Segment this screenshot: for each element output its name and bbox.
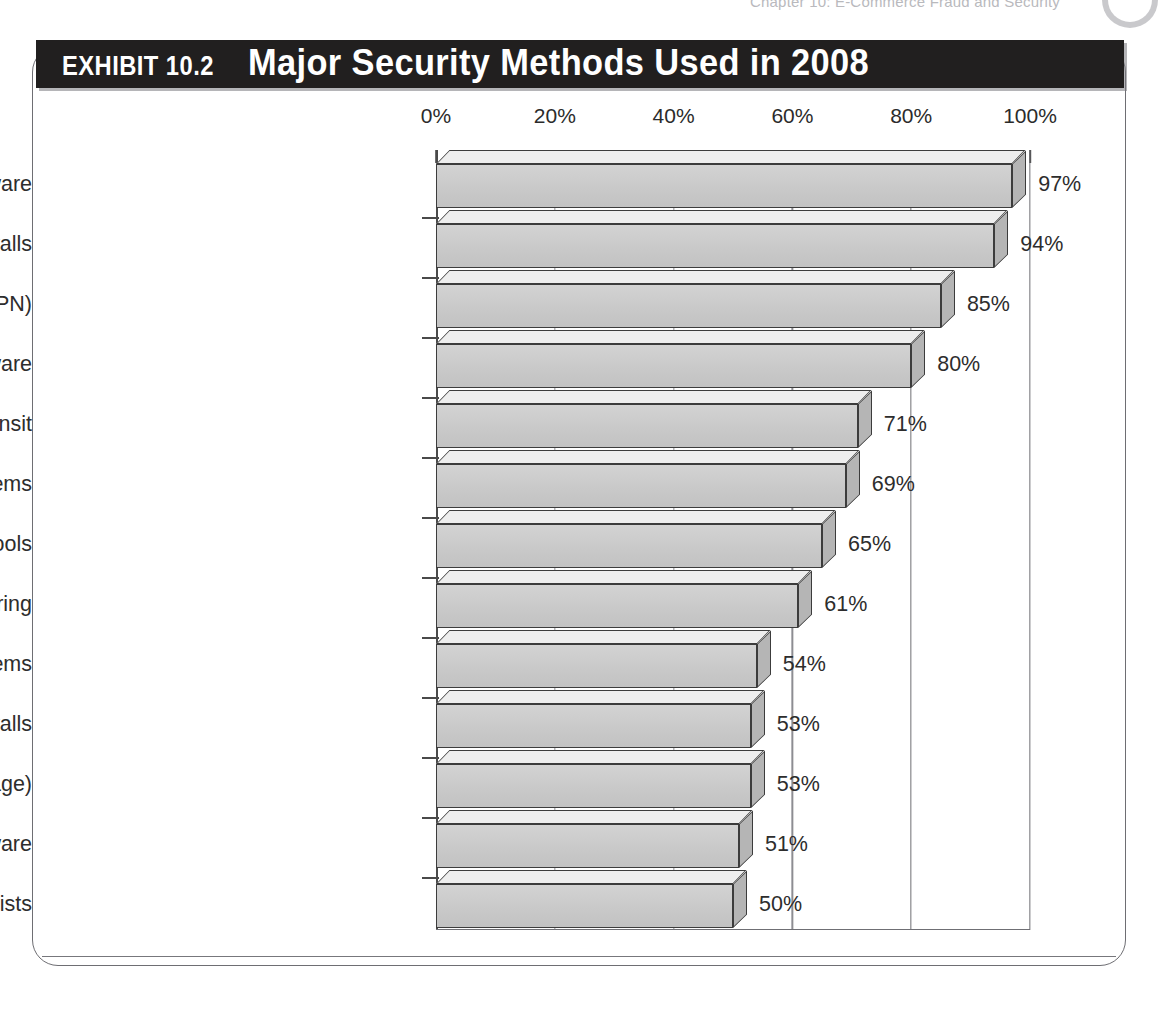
bar-row: Intrusion detection systems69% — [32, 450, 1126, 506]
exhibit-number-label: EXHIBIT 10.2 — [62, 51, 214, 82]
x-axis-tick-label: 40% — [653, 104, 695, 128]
bar-value-label: 65% — [848, 532, 891, 557]
bar-front-face — [436, 224, 994, 268]
bar — [436, 330, 911, 388]
bar-value-label: 85% — [967, 292, 1010, 317]
bar-front-face — [436, 884, 733, 928]
category-label: Vulnerability/patch management tools — [0, 532, 32, 557]
category-label: Anti-spyware software — [0, 352, 32, 377]
bar-top-face — [436, 390, 871, 404]
bar-top-face — [436, 510, 836, 524]
bar-row: Encryption of data transit71% — [32, 390, 1126, 446]
bar-value-label: 53% — [777, 712, 820, 737]
bar-row: Application-level firewalls53% — [32, 690, 1126, 746]
bar-value-label: 50% — [759, 892, 802, 917]
bar-row: Intrusion prevention systems54% — [32, 630, 1126, 686]
category-label: Intrusion detection systems — [0, 472, 32, 497]
x-axis-tick-label: 80% — [890, 104, 932, 128]
category-label: Web/URL filtering — [0, 592, 32, 617]
bar-top-face — [436, 690, 764, 704]
category-label: Encryption of data at rest (in storage) — [0, 772, 32, 797]
bar — [436, 390, 858, 448]
bar-front-face — [436, 284, 941, 328]
bar-front-face — [436, 404, 858, 448]
running-header-text: Chapter 10: E-Commerce Fraud and Securit… — [750, 0, 1060, 10]
bar-value-label: 97% — [1038, 172, 1081, 197]
bar — [436, 510, 822, 568]
exhibit-container: EXHIBIT 10.2 Major Security Methods Used… — [32, 40, 1130, 972]
category-label: Log management software — [0, 832, 32, 857]
bar-front-face — [436, 464, 846, 508]
bar-top-face — [436, 270, 954, 284]
bar-row: Server-based access control lists50% — [32, 870, 1126, 926]
bar-row: Virtual private network (VPN)85% — [32, 270, 1126, 326]
bar-row: Firewalls94% — [32, 210, 1126, 266]
exhibit-banner: EXHIBIT 10.2 Major Security Methods Used… — [36, 40, 1124, 88]
bar-row: Vulnerability/patch management tools65% — [32, 510, 1126, 566]
bar-top-face — [436, 630, 770, 644]
bar-front-face — [436, 704, 751, 748]
bar-top-face — [436, 450, 859, 464]
bar-front-face — [436, 524, 822, 568]
x-axis-tick-label: 60% — [771, 104, 813, 128]
bar-front-face — [436, 584, 798, 628]
bar-front-face — [436, 764, 751, 808]
bar — [436, 210, 994, 268]
x-axis-tick-label: 0% — [421, 104, 451, 128]
bar — [436, 630, 757, 688]
exhibit-title: Major Security Methods Used in 2008 — [248, 42, 869, 84]
bar-top-face — [436, 870, 747, 884]
bar-top-face — [436, 210, 1008, 224]
bar-front-face — [436, 824, 739, 868]
x-axis-tick-label: 20% — [534, 104, 576, 128]
bar-top-face — [436, 570, 812, 584]
bar — [436, 690, 751, 748]
bar-row: Web/URL filtering61% — [32, 570, 1126, 626]
x-axis-tick-label: 100% — [1003, 104, 1057, 128]
category-label: Server-based access control lists — [0, 892, 32, 917]
bar-top-face — [436, 150, 1026, 164]
bar-value-label: 71% — [884, 412, 927, 437]
bar — [436, 450, 846, 508]
bar-value-label: 53% — [777, 772, 820, 797]
x-axis: 0%20%40%60%80%100% — [32, 104, 1126, 134]
bar-value-label: 94% — [1020, 232, 1063, 257]
bar-front-face — [436, 344, 911, 388]
page-running-header: Chapter 10: E-Commerce Fraud and Securit… — [0, 0, 1164, 22]
bar-value-label: 69% — [872, 472, 915, 497]
bar — [436, 810, 739, 868]
category-label: Virtual private network (VPN) — [0, 292, 32, 317]
bar-top-face — [436, 750, 764, 764]
bar-top-face — [436, 810, 752, 824]
bar-value-label: 80% — [937, 352, 980, 377]
bar — [436, 570, 798, 628]
chart-floor-line — [42, 956, 1116, 957]
bar-chart: 0%20%40%60%80%100% Antivirus software97%… — [32, 88, 1126, 966]
bar-row: Log management software51% — [32, 810, 1126, 866]
bar-front-face — [436, 644, 757, 688]
bar — [436, 750, 751, 808]
bar-value-label: 54% — [783, 652, 826, 677]
category-label: Intrusion prevention systems — [0, 652, 32, 677]
category-label: Application-level firewalls — [0, 712, 32, 737]
bar — [436, 150, 1012, 208]
bar-top-face — [436, 330, 925, 344]
bar — [436, 270, 941, 328]
bar-front-face — [436, 164, 1012, 208]
category-label: Antivirus software — [0, 172, 32, 197]
category-label: Encryption of data transit — [0, 412, 32, 437]
category-label: Firewalls — [0, 232, 32, 257]
value-axis-baseline — [436, 929, 1030, 930]
bar-value-label: 51% — [765, 832, 808, 857]
bar-value-label: 61% — [824, 592, 867, 617]
bar — [436, 870, 733, 928]
bar-row: Anti-spyware software80% — [32, 330, 1126, 386]
bar-row: Encryption of data at rest (in storage)5… — [32, 750, 1126, 806]
bar-row: Antivirus software97% — [32, 150, 1126, 206]
